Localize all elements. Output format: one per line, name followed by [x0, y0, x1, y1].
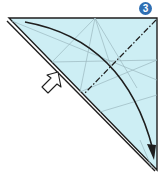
origami-diagram	[0, 0, 163, 177]
push-arrow-icon	[42, 72, 61, 93]
step-number-badge: 3	[139, 2, 152, 15]
paper-triangle	[9, 18, 157, 170]
